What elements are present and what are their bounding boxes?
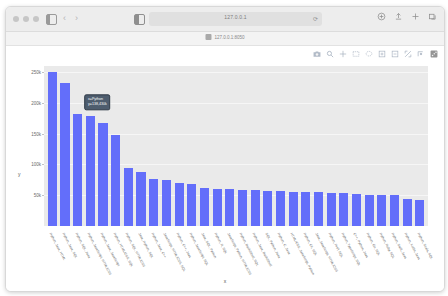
close-button[interactable] [13,16,19,22]
x-tick-column: Python, C, Java [274,230,287,288]
navigation-arrows[interactable]: ‹ › [63,13,78,24]
plotly-modebar[interactable] [313,50,438,58]
address-bar[interactable]: 127.0.0.1 ⟳ [149,12,322,26]
reader-view-icon[interactable] [134,14,145,25]
minimize-button[interactable] [23,16,29,22]
reload-icon[interactable]: ⟳ [313,15,318,22]
sidebar-icon[interactable] [46,14,57,25]
tab-overview-icon[interactable] [428,12,437,21]
bar[interactable] [225,189,234,226]
bar-column[interactable] [97,66,110,226]
plotly-logo-icon[interactable] [430,50,438,58]
back-button[interactable]: ‹ [63,13,66,24]
bar-column[interactable] [223,66,236,226]
pan-icon[interactable] [339,50,347,58]
window-controls[interactable] [13,16,39,22]
bar[interactable] [48,72,57,226]
bar-column[interactable] [71,66,84,226]
bar-column[interactable] [325,66,338,226]
share-icon[interactable] [377,12,386,21]
bar[interactable] [327,193,336,226]
x-tick-column: Python, Java, C++ [147,230,160,288]
bar[interactable] [403,199,412,226]
bar[interactable] [149,179,158,226]
x-tick-column: Python, SQL, Java [71,230,84,288]
bar-column[interactable] [122,66,135,226]
bar-column[interactable] [287,66,300,226]
bar[interactable] [124,168,133,226]
address-bar-container[interactable]: 127.0.0.1 ⟳ [134,12,322,26]
bar[interactable] [162,180,171,226]
bar[interactable] [251,190,260,226]
bar[interactable] [352,194,361,226]
forward-button[interactable]: › [75,13,78,24]
bar-column[interactable] [185,66,198,226]
bar[interactable] [111,135,120,226]
bar-column[interactable] [299,66,312,226]
bar[interactable] [98,123,107,226]
bar-column[interactable] [46,66,59,226]
bar[interactable] [73,114,82,226]
bar-column[interactable] [337,66,350,226]
bar[interactable] [289,192,298,226]
bar[interactable] [314,192,323,226]
bar-column[interactable] [109,66,122,226]
bar-column[interactable] [135,66,148,226]
bar-column[interactable] [211,66,224,226]
zoom-out-icon[interactable] [391,50,399,58]
bar-column[interactable] [388,66,401,226]
x-tick-column: Python, Java, HTML [46,230,59,288]
y-axis-tick-label: 100k [31,162,41,167]
bar[interactable] [377,195,386,226]
bar-column[interactable] [59,66,72,226]
bar-column[interactable] [363,66,376,226]
bar-column[interactable] [160,66,173,226]
new-tab-icon[interactable] [411,12,420,21]
bar[interactable] [86,116,95,226]
camera-download-icon[interactable] [313,50,321,58]
bar-column[interactable] [173,66,186,226]
browser-toolbar: ‹ › 127.0.0.1 ⟳ [6,7,444,32]
bar-column[interactable] [236,66,249,226]
box-select-icon[interactable] [352,50,360,58]
bar-column[interactable] [261,66,274,226]
bar-column[interactable] [198,66,211,226]
bar[interactable] [213,189,222,226]
download-icon[interactable] [394,12,403,21]
bar[interactable] [200,188,209,226]
bar[interactable] [175,183,184,226]
zoom-button[interactable] [33,16,39,22]
bar-column[interactable] [274,66,287,226]
bar-column[interactable] [401,66,414,226]
bar[interactable] [276,191,285,226]
autoscale-icon[interactable] [404,50,412,58]
bar[interactable] [415,200,424,226]
bar-column[interactable] [147,66,160,226]
bar-column[interactable] [312,66,325,226]
bar[interactable] [187,184,196,226]
zoom-in-icon[interactable] [378,50,386,58]
x-tick-column: SQL, Python, Java [261,230,274,288]
bar[interactable] [238,190,247,226]
x-tick-column: HTML/CSS, JavaScript, Python [287,230,300,288]
bar[interactable] [339,193,348,226]
bar[interactable] [365,195,374,226]
plot-area[interactable]: 250k200k150k100k50k x=Python y=138,430k [44,66,428,226]
zoom-select-icon[interactable] [326,50,334,58]
reset-axes-icon[interactable] [417,50,425,58]
bar[interactable] [390,195,399,226]
bar[interactable] [263,191,272,226]
bar[interactable] [60,83,69,226]
bar-column[interactable] [375,66,388,226]
bookmark-item[interactable]: 127.0.0.1:8050 [205,34,244,40]
bar-column[interactable] [84,66,97,226]
lasso-select-icon[interactable] [365,50,373,58]
toolbar-right-icons[interactable] [377,12,437,21]
x-tick-column: Python, C#, SQL [299,230,312,288]
bar-column[interactable] [249,66,262,226]
bar-series[interactable] [44,66,428,226]
bar[interactable] [301,192,310,226]
bar-column[interactable] [350,66,363,226]
bar[interactable] [136,172,145,226]
bar-column[interactable] [413,66,426,226]
